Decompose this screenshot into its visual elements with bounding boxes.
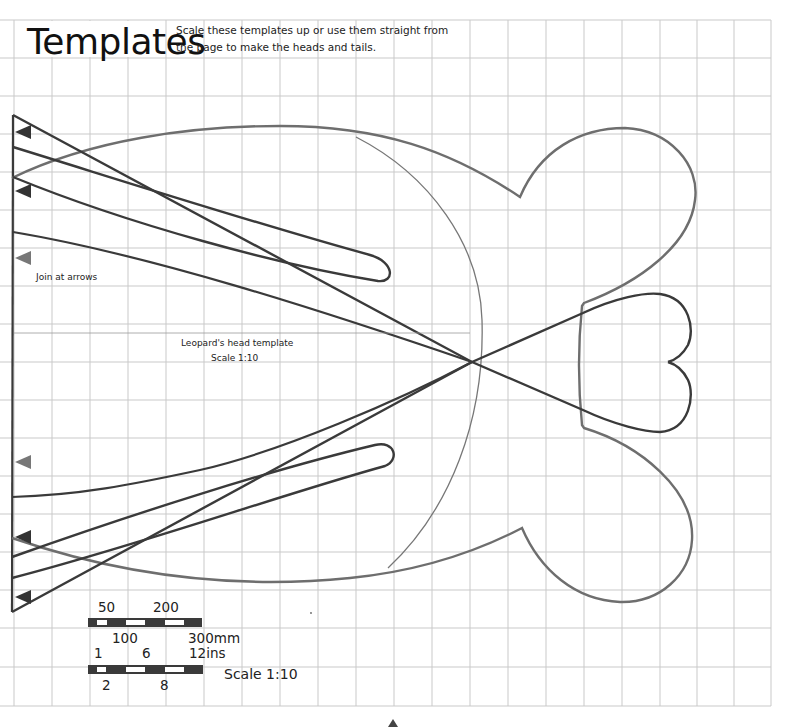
scale-mm-100: 100 [112, 630, 138, 646]
scale-in-6: 6 [142, 645, 151, 661]
scale-bar-mm [88, 618, 202, 627]
scale-mm-50: 50 [98, 599, 115, 615]
speck [310, 612, 312, 614]
graph-grid [0, 20, 771, 706]
scale-bar-inches [88, 665, 203, 674]
scale-mm-200: 200 [153, 599, 179, 615]
cut-line-lower-outer [12, 294, 691, 612]
join-arrow-icon [15, 251, 31, 265]
scale-mm-300: 300mm [188, 630, 240, 646]
join-arrow-icon [15, 184, 31, 198]
ear-outline [12, 126, 696, 602]
cut-loop-lower [12, 444, 394, 578]
template-name-label: Leopard's head template [181, 338, 293, 348]
scale-label: Scale 1:10 [224, 666, 298, 682]
join-label: Join at arrows [36, 272, 97, 282]
join-arrow-icon [15, 455, 31, 469]
join-arrow-icon [15, 125, 31, 139]
cut-line-upper-outer [13, 115, 691, 432]
join-arrow-icon [15, 590, 31, 604]
scale-in-1: 1 [94, 645, 103, 661]
scale-in-2: 2 [102, 677, 111, 693]
cropped-arrow-icon [388, 719, 398, 727]
template-scale-label: Scale 1:10 [211, 353, 258, 363]
intro-text: Scale these templates up or use them str… [176, 22, 466, 56]
head-arc [356, 137, 482, 568]
scale-in-8: 8 [160, 677, 169, 693]
template-diagram [0, 0, 797, 727]
cut-loop-upper [13, 147, 390, 281]
scale-in-12: 12ins [189, 645, 226, 661]
